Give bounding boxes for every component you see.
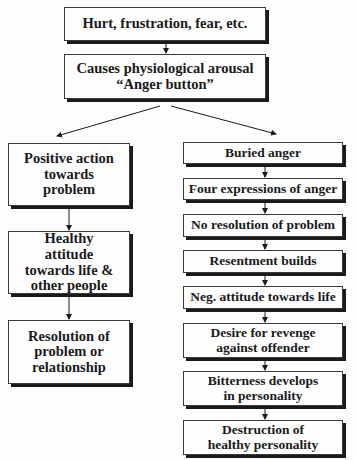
node-four-expressions: Four expressions of anger — [183, 178, 343, 200]
node-resolution: Resolution of problem or relationship — [8, 320, 130, 384]
node-positive-action: Positive action towards problem — [8, 143, 130, 206]
node-desire-revenge: Desire for revenge against offender — [183, 323, 343, 358]
node-negative-attitude: Neg. attitude towards life — [183, 286, 343, 309]
node-buried-anger: Buried anger — [183, 142, 343, 164]
node-destruction: Destruction of healthy personality — [183, 420, 343, 455]
node-bitterness: Bitterness develops in personality — [183, 371, 343, 406]
node-healthy-attitude: Healthy attitude towards life & other pe… — [8, 231, 130, 294]
node-physiological-arousal: Causes physiological arousal “Anger butt… — [64, 54, 266, 99]
node-resentment-builds: Resentment builds — [183, 250, 343, 273]
node-hurt-frustration-fear: Hurt, frustration, fear, etc. — [64, 7, 266, 41]
node-no-resolution: No resolution of problem — [183, 214, 343, 237]
